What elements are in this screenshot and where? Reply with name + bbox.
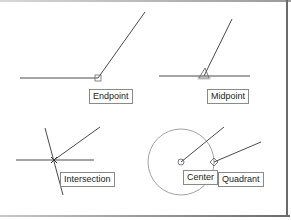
midpoint-label: Midpoint xyxy=(207,89,249,104)
endpoint-illustration xyxy=(20,12,145,81)
endpoint-label: Endpoint xyxy=(89,89,133,104)
diagram-canvas xyxy=(0,0,291,220)
center-label: Center xyxy=(183,170,218,185)
diagram-frame: Endpoint Midpoint Intersection Center Qu… xyxy=(0,0,291,220)
intersection-label: Intersection xyxy=(60,172,115,187)
quadrant-label: Quadrant xyxy=(218,172,264,187)
midpoint-illustration xyxy=(159,19,250,79)
